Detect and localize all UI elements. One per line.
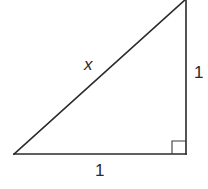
horizontal-leg-label: 1 bbox=[95, 162, 104, 179]
right-triangle-diagram bbox=[0, 0, 208, 189]
hypotenuse-edge bbox=[14, 0, 186, 154]
right-angle-marker bbox=[172, 141, 186, 154]
hypotenuse-label: x bbox=[84, 56, 93, 73]
vertical-leg-label: 1 bbox=[194, 64, 203, 81]
